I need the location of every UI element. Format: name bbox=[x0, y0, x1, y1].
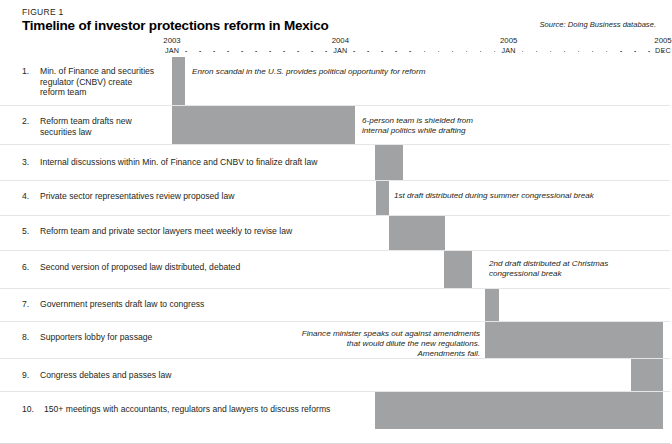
axis-year-label: 2005 bbox=[654, 36, 671, 45]
row-number: 10. bbox=[22, 404, 34, 415]
timeline-bar[interactable] bbox=[376, 181, 389, 216]
axis-tick-month bbox=[438, 51, 440, 53]
timeline-axis: 2003JAN2004JAN2005JAN2005DEC bbox=[0, 36, 670, 58]
timeline-bar[interactable] bbox=[444, 251, 472, 289]
row-number: 8. bbox=[22, 332, 29, 343]
axis-tick-month bbox=[536, 51, 538, 53]
figure-source: Source: Doing Business database. bbox=[539, 20, 656, 29]
top-rule bbox=[0, 0, 670, 1]
row-number: 3. bbox=[22, 157, 29, 168]
row-number: 1. bbox=[22, 66, 29, 77]
axis-year-label: 2003 bbox=[163, 36, 180, 45]
timeline-bar[interactable] bbox=[375, 145, 403, 181]
axis-tick-month bbox=[606, 51, 608, 53]
row-annotation: 1st draft distributed during summer cong… bbox=[394, 191, 644, 201]
axis-tick-month bbox=[382, 51, 384, 53]
row-label: Second version of proposed law distribut… bbox=[40, 262, 360, 273]
timeline-row[interactable]: 1.Min. of Finance and securities regulat… bbox=[0, 57, 670, 105]
axis-tick-month bbox=[297, 51, 299, 53]
axis-month-label: DEC bbox=[655, 46, 671, 55]
timeline-row[interactable]: 3.Internal discussions within Min. of Fi… bbox=[0, 144, 670, 180]
row-label: Congress debates and passes law bbox=[40, 370, 360, 381]
timeline-row[interactable]: 6.Second version of proposed law distrib… bbox=[0, 250, 670, 288]
timeline-row[interactable]: 7.Government presents draft law to congr… bbox=[0, 288, 670, 321]
timeline-row[interactable]: 10.150+ meetings with accountants, regul… bbox=[0, 391, 670, 428]
row-number: 4. bbox=[22, 191, 29, 202]
axis-tick-month bbox=[311, 51, 313, 53]
row-number: 5. bbox=[22, 226, 29, 237]
axis-tick-month bbox=[368, 51, 370, 53]
timeline-bar[interactable] bbox=[485, 289, 499, 322]
timeline-bar[interactable] bbox=[631, 359, 663, 392]
axis-tick-month bbox=[634, 51, 636, 53]
axis-month-label: JAN bbox=[333, 46, 347, 55]
row-label: Reform team and private sector lawyers m… bbox=[40, 226, 360, 237]
timeline-rows: 1.Min. of Finance and securities regulat… bbox=[0, 57, 670, 443]
axis-year-label: 2004 bbox=[332, 36, 349, 45]
timeline-row[interactable]: 5.Reform team and private sector lawyers… bbox=[0, 215, 670, 250]
row-label: Private sector representatives review pr… bbox=[40, 191, 360, 202]
axis-tick-month bbox=[550, 51, 552, 53]
axis-tick-month bbox=[564, 51, 566, 53]
axis-tick-month bbox=[396, 51, 398, 53]
timeline-bar[interactable] bbox=[389, 216, 445, 251]
timeline-bar[interactable] bbox=[172, 57, 185, 105]
axis-tick-month bbox=[522, 51, 524, 53]
axis-tick-month bbox=[354, 51, 356, 53]
row-number: 9. bbox=[22, 370, 29, 381]
axis-tick-month bbox=[326, 51, 328, 53]
axis-tick-month bbox=[578, 51, 580, 53]
axis-tick-month bbox=[648, 51, 650, 53]
row-annotation: 6-person team is shielded from internal … bbox=[362, 116, 532, 136]
axis-tick-month bbox=[269, 51, 271, 53]
timeline-row[interactable]: 4.Private sector representatives review … bbox=[0, 180, 670, 215]
axis-tick-month bbox=[592, 51, 594, 53]
axis-tick-month bbox=[185, 51, 187, 53]
axis-year-label: 2005 bbox=[500, 36, 517, 45]
axis-tick-month bbox=[424, 51, 426, 53]
figure-label: FIGURE 1 bbox=[22, 7, 64, 17]
axis-tick-month bbox=[241, 51, 243, 53]
timeline-row[interactable]: 9.Congress debates and passes law bbox=[0, 358, 670, 391]
timeline-bar[interactable] bbox=[172, 106, 355, 145]
axis-tick-month bbox=[452, 51, 454, 53]
axis-tick-month bbox=[283, 51, 285, 53]
row-annotation: Finance minister speaks out against amen… bbox=[250, 329, 480, 360]
axis-tick-month bbox=[494, 51, 496, 53]
row-label: Internal discussions within Min. of Fina… bbox=[40, 157, 360, 168]
axis-tick-month bbox=[620, 51, 622, 53]
axis-tick-month bbox=[213, 51, 215, 53]
timeline-bar[interactable] bbox=[375, 392, 663, 429]
row-number: 2. bbox=[22, 116, 29, 127]
axis-month-label: JAN bbox=[502, 46, 516, 55]
axis-tick-month bbox=[199, 51, 201, 53]
axis-month-label: JAN bbox=[165, 46, 179, 55]
row-number: 6. bbox=[22, 262, 29, 273]
axis-tick-month bbox=[227, 51, 229, 53]
page-title: Timeline of investor protections reform … bbox=[22, 18, 329, 33]
axis-tick-month bbox=[466, 51, 468, 53]
axis-tick-month bbox=[410, 51, 412, 53]
row-annotation: 2nd draft distributed at Christmas congr… bbox=[489, 259, 649, 279]
row-label: 150+ meetings with accountants, regulato… bbox=[44, 404, 364, 415]
timeline-row[interactable]: 8.Supporters lobby for passageFinance mi… bbox=[0, 321, 670, 358]
timeline-row[interactable]: 2.Reform team drafts new securities law6… bbox=[0, 105, 670, 144]
axis-tick-month bbox=[255, 51, 257, 53]
axis-tick-month bbox=[480, 51, 482, 53]
row-label: Government presents draft law to congres… bbox=[40, 299, 360, 310]
row-annotation: Enron scandal in the U.S. provides polit… bbox=[192, 67, 492, 77]
timeline-bar[interactable] bbox=[485, 322, 663, 359]
row-number: 7. bbox=[22, 299, 29, 310]
